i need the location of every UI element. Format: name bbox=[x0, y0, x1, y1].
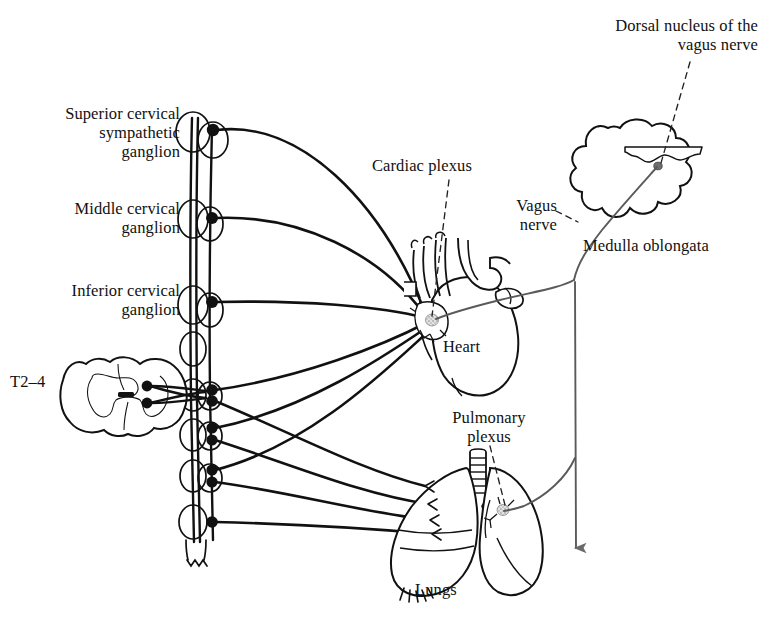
label-heart: Heart bbox=[443, 337, 509, 356]
label-cardiac-plexus: Cardiac plexus bbox=[372, 156, 502, 175]
label-spinal-segments-t2-4: T2–4 bbox=[10, 372, 70, 391]
label-inferior-cervical-ganglion: Inferior cervical ganglion bbox=[10, 281, 180, 319]
label-vagus-nerve: Vagus nerve bbox=[489, 196, 557, 234]
label-lungs: Lungs bbox=[415, 580, 479, 599]
label-pulmonary-plexus: Pulmonary plexus bbox=[434, 408, 544, 446]
spinal-root-dot bbox=[142, 381, 153, 392]
label-superior-cervical-ganglion: Superior cervical sympathetic ganglion bbox=[10, 104, 180, 161]
spinal-root-dot bbox=[142, 398, 153, 409]
label-medulla-oblongata: Medulla oblongata bbox=[583, 236, 748, 255]
spinal-cord-cross-section bbox=[60, 357, 186, 436]
anatomical-figure: Superior cervical sympathetic ganglion M… bbox=[0, 0, 764, 622]
label-middle-cervical-ganglion: Middle cervical ganglion bbox=[10, 199, 180, 237]
label-dorsal-nucleus-of-vagus-nerve: Dorsal nucleus of the vagus nerve bbox=[553, 16, 758, 54]
